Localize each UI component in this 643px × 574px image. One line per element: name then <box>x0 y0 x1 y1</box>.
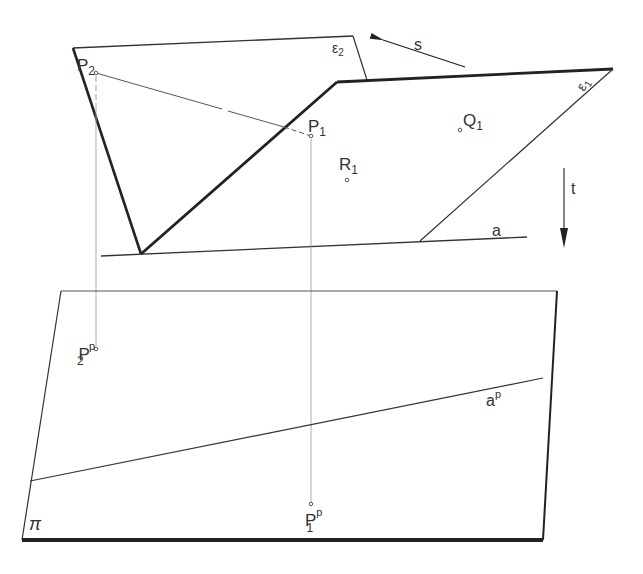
line-a-projection <box>30 378 543 481</box>
point-p1-projection <box>309 502 313 506</box>
diagram-canvas: P2 ε2 ε1 P1 R1 Q1 s t a Pp2 ap Pp1 π <box>0 0 643 574</box>
vector-t <box>560 168 568 248</box>
plane-epsilon2 <box>73 36 367 254</box>
label-pi: π <box>29 514 42 534</box>
label-t: t <box>571 180 576 197</box>
point-q1 <box>458 128 462 132</box>
line-p2-p1 <box>96 73 311 136</box>
label-p2: P2 <box>77 56 95 78</box>
label-epsilon2: ε2 <box>332 40 344 58</box>
label-q1: Q1 <box>463 111 483 133</box>
label-epsilon1: ε1 <box>573 75 595 95</box>
label-r1: R1 <box>339 155 358 177</box>
label-p2-projection: Pp2 <box>77 340 95 368</box>
plane-epsilon1 <box>141 69 613 254</box>
label-s: s <box>414 36 422 53</box>
label-a-projection: ap <box>486 388 501 409</box>
point-r1 <box>345 178 349 182</box>
label-p1-projection: Pp1 <box>305 506 322 535</box>
line-a <box>101 237 527 256</box>
label-a: a <box>492 222 501 239</box>
label-p1: P1 <box>308 117 326 139</box>
vector-s <box>383 40 465 67</box>
plane-pi <box>22 291 557 540</box>
